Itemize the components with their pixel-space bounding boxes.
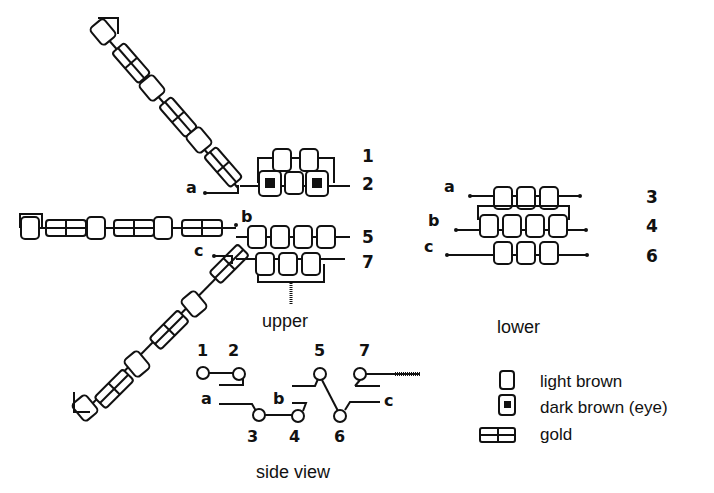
side-label-2: 2	[228, 341, 239, 360]
row-label-4: 4	[646, 216, 658, 236]
light-brown-bead-icon	[500, 371, 514, 389]
side-label-7: 7	[359, 341, 370, 360]
lower-strand-label-b: b	[428, 211, 439, 230]
caption-side-view: side view	[256, 462, 331, 482]
strand-label-c: c	[194, 241, 203, 260]
upper-row-5	[236, 226, 350, 248]
row-label-6: 6	[646, 246, 658, 266]
row-label-2: 2	[362, 174, 374, 194]
lower-body	[445, 187, 589, 264]
upper-row-7	[236, 253, 345, 305]
side-label-1: 1	[197, 341, 208, 360]
beadwork-diagram: 1 2 5 7 a b c upper a b c 3 4 6 lower	[0, 0, 714, 493]
legend-label-gold: gold	[540, 425, 572, 444]
side-label-5: 5	[314, 341, 325, 360]
caption-upper: upper	[262, 311, 308, 331]
side-label-3: 3	[247, 427, 258, 446]
strand-label-a: a	[186, 178, 197, 197]
row-label-5: 5	[362, 227, 374, 247]
row-label-3: 3	[646, 187, 658, 207]
caption-lower: lower	[497, 317, 540, 337]
gold-bead-icon	[480, 428, 515, 442]
lower-strand-label-a: a	[444, 177, 455, 196]
row-label-1: 1	[362, 146, 374, 166]
strand-label-b: b	[241, 207, 252, 226]
leg-b	[20, 214, 238, 239]
side-label-4: 4	[289, 427, 300, 446]
upper-rows-1-2	[240, 149, 350, 196]
side-label-c: c	[384, 391, 393, 410]
legend-label-light-brown: light brown	[540, 372, 622, 391]
side-label-b: b	[273, 389, 284, 408]
row-label-7: 7	[362, 252, 374, 272]
legend	[480, 371, 515, 442]
side-label-a: a	[201, 389, 212, 408]
dark-brown-eye-bead-icon	[499, 395, 515, 415]
legend-label-dark-brown: dark brown (eye)	[540, 398, 668, 417]
side-label-6: 6	[334, 427, 345, 446]
leg-a	[89, 18, 242, 195]
leg-c	[71, 244, 249, 422]
lower-strand-label-c: c	[424, 237, 433, 256]
